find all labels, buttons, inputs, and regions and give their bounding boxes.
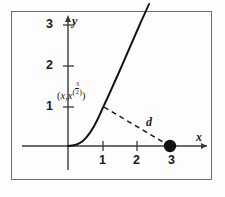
exponent-fraction: 32 [75,81,79,95]
x-axis-label: x [196,131,202,143]
x-tick-label-1: 1 [99,154,106,167]
curve-point-label: (x,x(32)) [57,82,86,102]
y-axis-arrow-icon [65,15,71,22]
distance-label: d [146,116,152,128]
x-tick-label-3: 3 [168,154,175,167]
figure-container: 3 2 1 1 2 3 y x d (x,x(32)) [0,0,225,197]
x-tick-label-2: 2 [133,154,140,167]
plot-canvas [0,0,225,197]
y-tick-label-1: 1 [46,100,53,113]
function-curve [68,4,149,146]
y-tick-label-3: 3 [46,18,53,31]
distance-segment [104,107,168,145]
y-axis-label: y [72,15,77,27]
exponent-denominator: 2 [75,89,79,96]
y-tick-label-2: 2 [46,59,53,72]
axis-point-marker [164,140,176,152]
curve-point-label-close: ) [82,90,86,101]
